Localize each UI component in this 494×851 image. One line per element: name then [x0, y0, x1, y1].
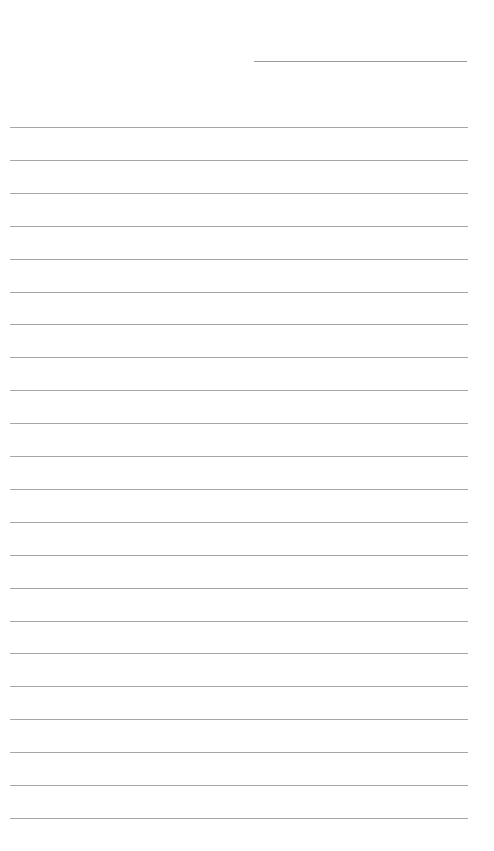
ruled-line [10, 752, 468, 753]
ruled-line [10, 686, 468, 687]
ruled-line [10, 226, 468, 227]
ruled-line [10, 818, 468, 819]
ruled-line [10, 292, 468, 293]
ruled-line [10, 621, 468, 622]
ruled-line [10, 390, 468, 391]
ruled-line [10, 357, 468, 358]
ruled-line [10, 555, 468, 556]
ruled-line [10, 489, 468, 490]
header-date-line [254, 61, 467, 62]
ruled-line [10, 423, 468, 424]
ruled-line [10, 719, 468, 720]
ruled-line [10, 127, 468, 128]
ruled-line [10, 324, 468, 325]
ruled-line [10, 193, 468, 194]
ruled-line [10, 588, 468, 589]
ruled-line [10, 259, 468, 260]
ruled-line [10, 785, 468, 786]
ruled-line [10, 653, 468, 654]
lined-paper-page [0, 0, 494, 851]
ruled-line [10, 456, 468, 457]
ruled-line [10, 160, 468, 161]
ruled-line [10, 522, 468, 523]
